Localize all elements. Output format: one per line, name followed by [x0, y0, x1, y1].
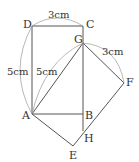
segment-ea: [32, 114, 73, 146]
geometry-diagram: D C G F A B H E 3cm 5cm 5cm 3cm: [0, 0, 139, 162]
dimension-ag: 5cm: [36, 67, 57, 77]
label-b: B: [85, 110, 93, 121]
segment-ag: [32, 43, 83, 114]
label-e: E: [69, 150, 77, 161]
label-a: A: [22, 110, 30, 121]
label-h: H: [84, 133, 94, 144]
dimension-da: 5cm: [7, 67, 28, 77]
label-c: C: [86, 19, 94, 30]
label-f: F: [126, 77, 134, 88]
dimension-gf: 3cm: [102, 47, 123, 57]
label-d: D: [23, 19, 32, 30]
label-g: G: [74, 34, 83, 45]
diagram-canvas: [0, 0, 139, 162]
dimension-dc: 3cm: [48, 10, 69, 20]
